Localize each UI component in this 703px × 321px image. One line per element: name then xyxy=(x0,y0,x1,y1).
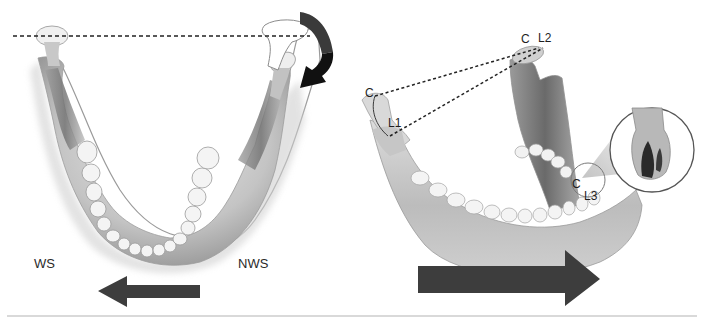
working-side-label: WS xyxy=(34,256,55,271)
condyle-label-inset: C xyxy=(572,177,581,191)
tooth-cross-section-inset xyxy=(610,108,694,192)
condyle-label-top: C xyxy=(521,32,530,46)
condyle-label-left: C xyxy=(365,86,374,100)
mandible-movement-figure: WS NWS xyxy=(0,0,703,321)
occlusal-view-panel: WS NWS xyxy=(0,0,350,321)
left-direction-arrow-icon xyxy=(98,276,200,307)
l3-label: L3 xyxy=(584,189,597,203)
bottom-divider xyxy=(7,315,697,317)
far-ramus xyxy=(510,58,580,210)
mandible-body xyxy=(370,120,642,275)
l2-label: L2 xyxy=(538,31,551,45)
occlusal-mandible-illustration xyxy=(0,0,350,321)
l1-label: L1 xyxy=(388,116,401,130)
non-working-side-label: NWS xyxy=(238,256,268,271)
oblique-mandible-illustration xyxy=(350,0,703,321)
oblique-view-panel: C L1 C L2 C L3 xyxy=(350,0,703,321)
